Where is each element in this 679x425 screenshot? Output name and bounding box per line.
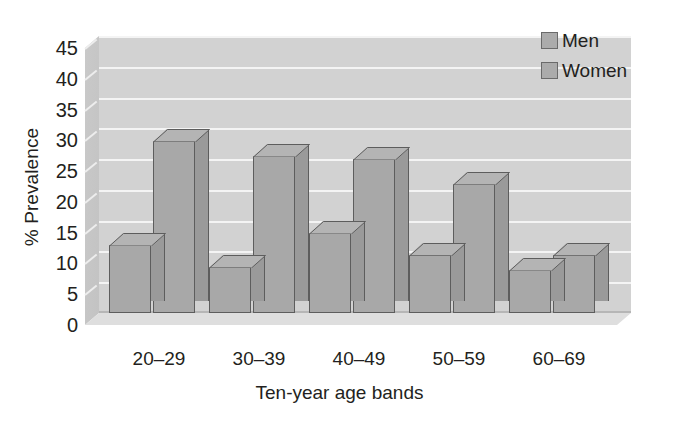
bar-face (309, 233, 351, 313)
y-axis-tick-label: 10 (42, 253, 78, 273)
bar-men-40–49 (309, 233, 351, 313)
bar-face (509, 270, 551, 313)
y-axis-tick-label: 45 (42, 38, 78, 58)
y-axis-tick-label: 15 (42, 223, 78, 243)
legend: MenWomen (541, 25, 627, 85)
bar-men-30–39 (209, 267, 251, 313)
y-axis-tick-labels: 051015202530354045 (38, 0, 78, 425)
y-axis-tick-label: 5 (42, 284, 78, 304)
bar-group (409, 36, 509, 313)
y-axis-tick-label: 25 (42, 161, 78, 181)
legend-label: Men (562, 31, 599, 50)
bar-face (209, 267, 251, 313)
x-axis-title: Ten-year age bands (0, 382, 679, 404)
bar-group (109, 36, 209, 313)
y-axis-tick-label: 20 (42, 192, 78, 212)
bar-men-20–29 (109, 245, 151, 313)
y-axis-tick-label: 0 (42, 315, 78, 335)
x-axis-tick-label: 60–69 (499, 348, 619, 370)
y-axis-tick-label: 35 (42, 100, 78, 120)
bar-men-50–59 (409, 255, 451, 313)
bar-face (409, 255, 451, 313)
bar-side (195, 129, 209, 301)
bar-side (395, 147, 409, 301)
y-axis-tick-label: 30 (42, 130, 78, 150)
bar-men-60–69 (509, 270, 551, 313)
legend-item-men: Men (541, 25, 627, 55)
legend-label: Women (562, 61, 627, 80)
bar-face (109, 245, 151, 313)
bar-side (351, 221, 365, 301)
y-axis-tick-label: 40 (42, 69, 78, 89)
bar-group (209, 36, 309, 313)
bar-chart: % Prevalence 051015202530354045 20–2930–… (0, 0, 679, 425)
bar-side (295, 144, 309, 301)
legend-swatch-icon (541, 62, 558, 79)
bar-group (309, 36, 409, 313)
legend-item-women: Women (541, 55, 627, 85)
legend-swatch-icon (541, 32, 558, 49)
bar-side (495, 172, 509, 301)
